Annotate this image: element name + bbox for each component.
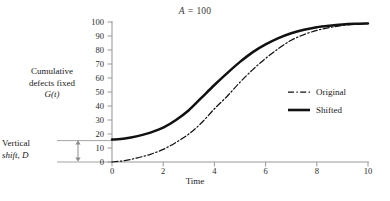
x-tick-label-6: 6 [256, 167, 276, 176]
x-tick-label-2: 2 [153, 167, 173, 176]
y-tick-label-60: 60 [82, 74, 104, 83]
y-tick-label-10: 10 [82, 144, 104, 153]
y-tick-label-90: 90 [82, 32, 104, 41]
legend-label-original: Original [316, 87, 346, 97]
y-tick-label-30: 30 [82, 116, 104, 125]
y-tick-label-80: 80 [82, 46, 104, 55]
chart-title: A = 100 [0, 6, 390, 16]
y-tick-label-20: 20 [82, 130, 104, 139]
vertical-shift-annotation-line-1: Vertical [2, 137, 56, 149]
x-tick-label-0: 0 [102, 167, 122, 176]
legend-label-shifted: Shifted [316, 105, 342, 115]
x-tick-label-10: 10 [358, 167, 378, 176]
shift-arrow-head-down [75, 157, 80, 161]
x-axis-ticks [112, 162, 368, 167]
y-tick-label-70: 70 [82, 60, 104, 69]
vertical-shift-annotation: Vertical shift, D [2, 137, 56, 161]
y-tick-label-40: 40 [82, 102, 104, 111]
chart-title-equals: = [187, 6, 196, 16]
figure-chart-cumulative-defects: A = 100 Cumulative defects fixed G(t) Ti… [0, 0, 390, 201]
x-axis-title: Time [0, 176, 390, 186]
chart-title-symbol: A [179, 6, 185, 16]
y-tick-label-100: 100 [82, 18, 104, 27]
chart-title-value: 100 [196, 6, 211, 16]
vertical-shift-annotation-line-2: shift, D [2, 149, 56, 161]
y-tick-label-50: 50 [82, 88, 104, 97]
plot-area [0, 0, 390, 201]
x-tick-label-4: 4 [204, 167, 224, 176]
y-tick-label-0: 0 [82, 158, 104, 167]
x-tick-label-8: 8 [307, 167, 327, 176]
